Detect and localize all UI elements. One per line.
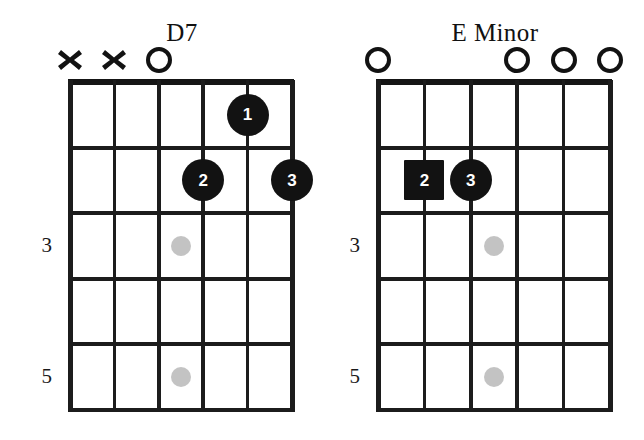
string-line-3	[469, 80, 473, 412]
string-line-1	[376, 80, 381, 412]
open-string-icon	[551, 47, 577, 73]
fret-line-4	[376, 342, 612, 346]
fret-number-label: 3	[326, 235, 360, 256]
fret-number-label: 5	[326, 366, 360, 387]
nut-line	[376, 79, 612, 85]
string-line-6	[608, 80, 613, 412]
fret-line-5	[376, 408, 612, 412]
finger-marker-2: 2	[404, 160, 444, 200]
fretboard-e-minor	[378, 82, 610, 410]
fret-line-3	[376, 277, 612, 281]
fret-inlay-dot	[484, 367, 504, 387]
fret-inlay-dot	[484, 236, 504, 256]
chord-title-e-minor: E Minor	[395, 20, 595, 45]
fret-line-1	[376, 146, 612, 150]
open-string-icon	[597, 47, 623, 73]
chord-diagram-e-minor: E Minor2335	[0, 0, 644, 440]
chord-chart-sheet: D712335E Minor2335	[0, 0, 644, 440]
string-line-4	[515, 80, 519, 412]
open-string-icon	[504, 47, 530, 73]
string-line-2	[423, 80, 427, 412]
open-string-icon	[365, 47, 391, 73]
fret-line-2	[376, 211, 612, 215]
string-line-5	[562, 80, 566, 412]
finger-marker-3: 3	[450, 159, 492, 201]
